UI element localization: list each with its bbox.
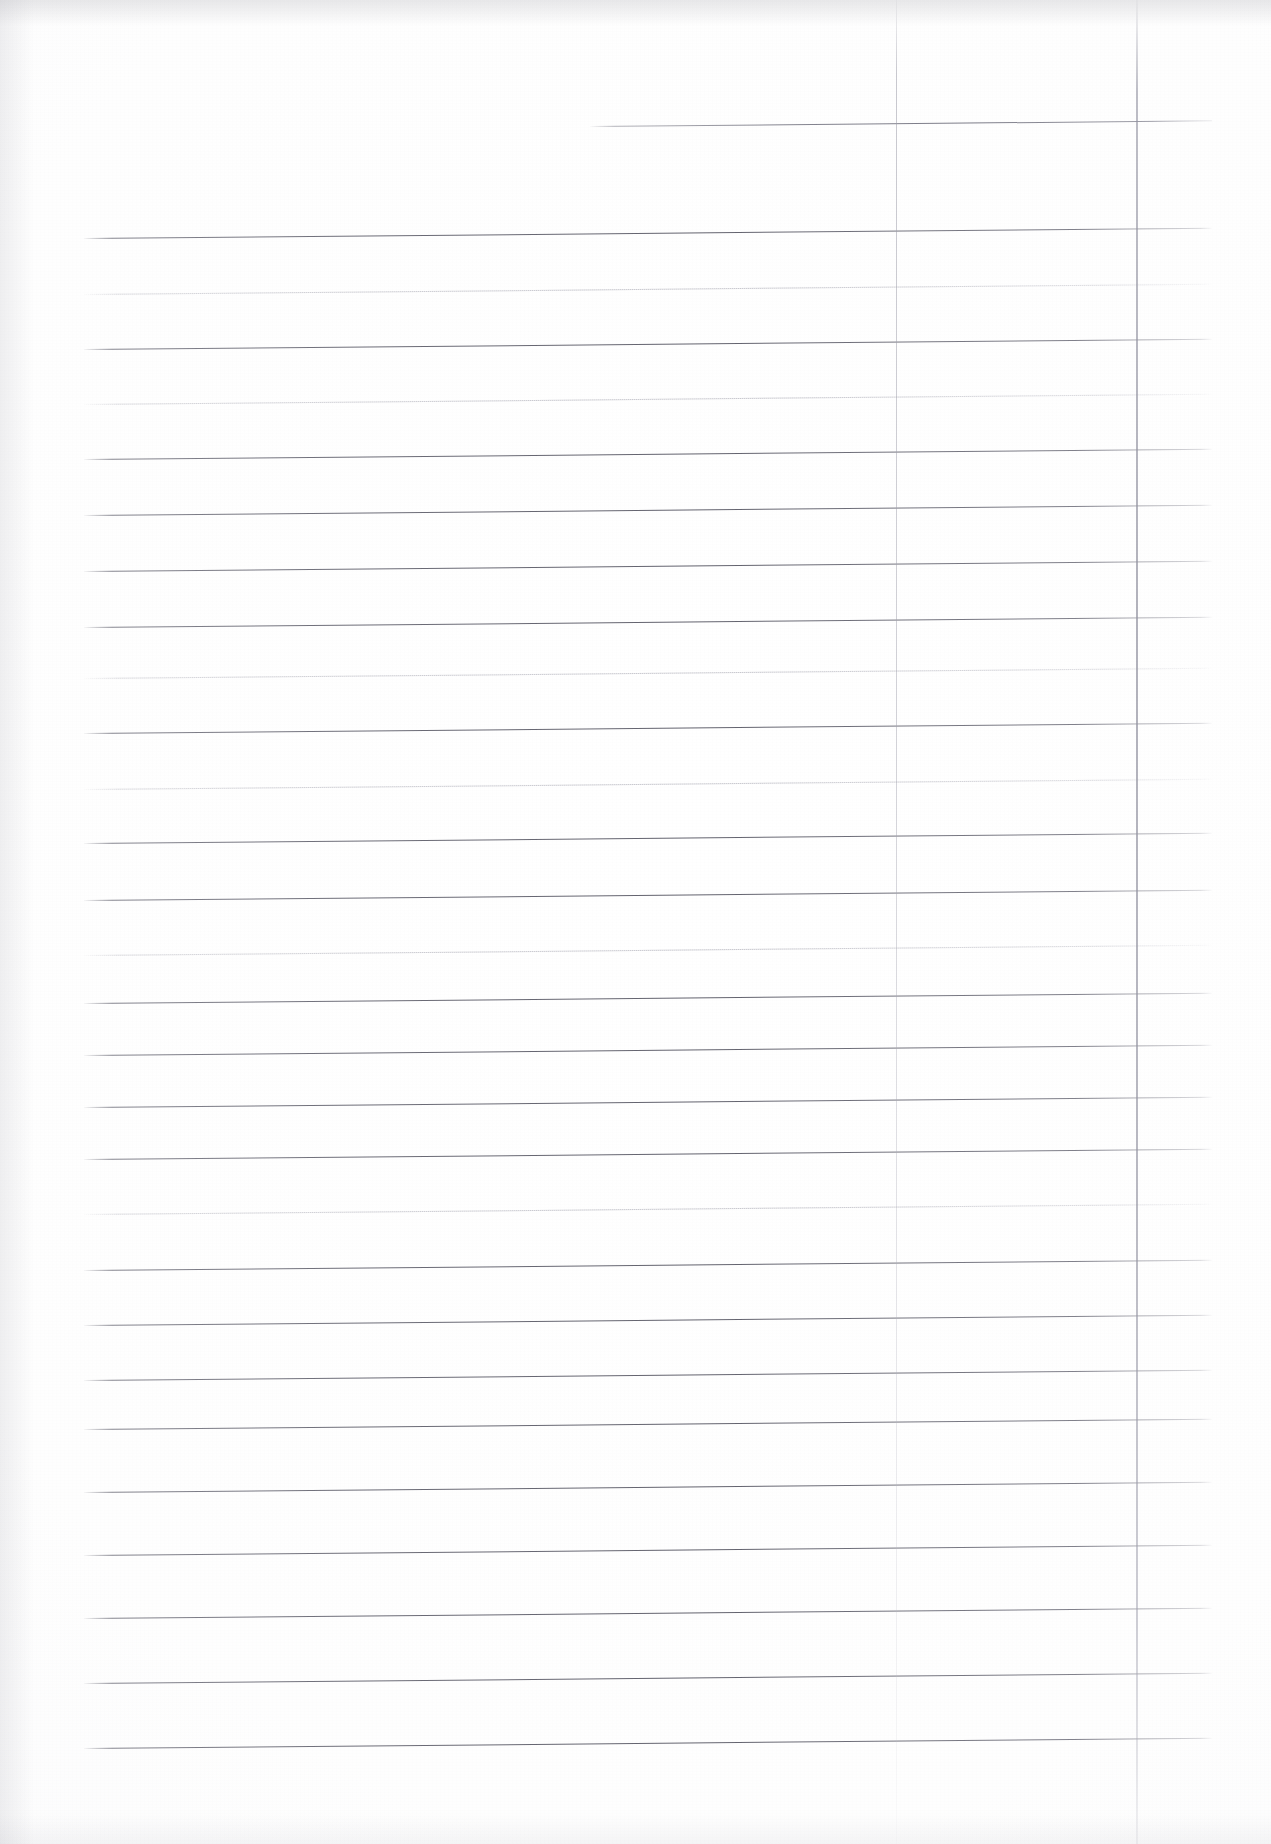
paper-sheet: [0, 0, 1271, 1844]
scanned-page: [0, 0, 1271, 1844]
